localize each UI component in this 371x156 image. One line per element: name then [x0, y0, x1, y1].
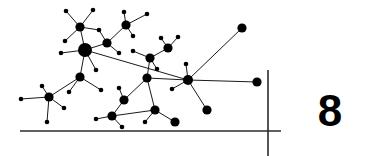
graph-node	[19, 97, 24, 102]
graph-edge	[112, 110, 155, 116]
graph-node	[143, 120, 148, 125]
graph-node	[63, 39, 68, 44]
graph-node	[176, 35, 181, 40]
graph-node	[202, 105, 211, 114]
graph-edge	[147, 78, 155, 110]
graph-node	[78, 43, 92, 57]
graph-node	[120, 125, 125, 130]
graph-edge	[124, 78, 147, 100]
graph-node	[131, 49, 136, 54]
graph-node	[117, 86, 122, 91]
graph-node	[183, 75, 193, 85]
graph-node	[75, 72, 84, 81]
node-layer	[19, 8, 262, 130]
graph-node	[159, 36, 164, 41]
graph-node	[67, 90, 72, 95]
graph-node	[184, 62, 189, 67]
graph-edge	[49, 77, 80, 97]
graph-node	[64, 9, 69, 14]
graph-node	[119, 95, 128, 104]
graph-node	[75, 22, 84, 31]
axis-layer	[20, 70, 281, 156]
page-number: 8	[307, 86, 353, 136]
graph-node	[237, 23, 246, 32]
graph-node	[122, 10, 127, 15]
graph-node	[45, 120, 50, 125]
graph-node	[150, 105, 159, 114]
graph-node	[170, 87, 175, 92]
graph-node	[252, 77, 261, 86]
graph-node	[102, 38, 111, 47]
graph-node	[44, 92, 53, 101]
graph-node	[142, 73, 151, 82]
graph-node	[155, 67, 160, 72]
edge-layer	[21, 10, 257, 127]
graph-node	[121, 20, 130, 29]
graph-edge	[85, 50, 188, 80]
graph-node	[99, 88, 104, 93]
graph-node	[59, 51, 64, 56]
graph-edge	[188, 80, 257, 82]
graph-node	[40, 84, 45, 89]
graph-node	[62, 106, 67, 111]
graph-edge	[188, 80, 207, 110]
graph-node	[131, 34, 136, 39]
figure-root: 8	[0, 0, 371, 156]
graph-edge	[188, 28, 242, 80]
graph-node	[91, 8, 96, 13]
graph-node	[145, 53, 154, 62]
graph-node	[117, 51, 122, 56]
graph-node	[107, 111, 116, 120]
graph-node	[94, 117, 99, 122]
graph-node	[145, 12, 150, 17]
graph-node	[97, 28, 102, 33]
graph-node	[170, 117, 179, 126]
graph-node	[163, 43, 172, 52]
graph-node	[94, 68, 99, 73]
